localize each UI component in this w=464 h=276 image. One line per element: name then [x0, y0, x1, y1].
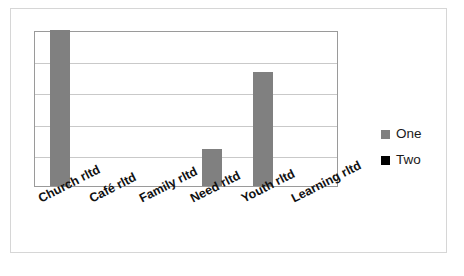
legend-item[interactable]: Two [381, 149, 451, 171]
legend-label: Two [396, 153, 421, 167]
chart-frame: Church rltdCafé rltdFamily rltdNeed rltd… [10, 8, 447, 253]
plot-area [34, 31, 338, 187]
bars-layer [35, 32, 337, 186]
chart-legend: OneTwo [381, 123, 451, 175]
chart-root: Church rltdCafé rltdFamily rltdNeed rltd… [0, 0, 464, 276]
gray-square-icon [381, 130, 390, 139]
legend-item[interactable]: One [381, 123, 451, 145]
bar [253, 72, 273, 186]
bar [50, 30, 70, 186]
legend-label: One [396, 127, 422, 141]
x-axis-labels: Church rltdCafé rltdFamily rltdNeed rltd… [34, 187, 338, 257]
black-square-icon [381, 156, 390, 165]
